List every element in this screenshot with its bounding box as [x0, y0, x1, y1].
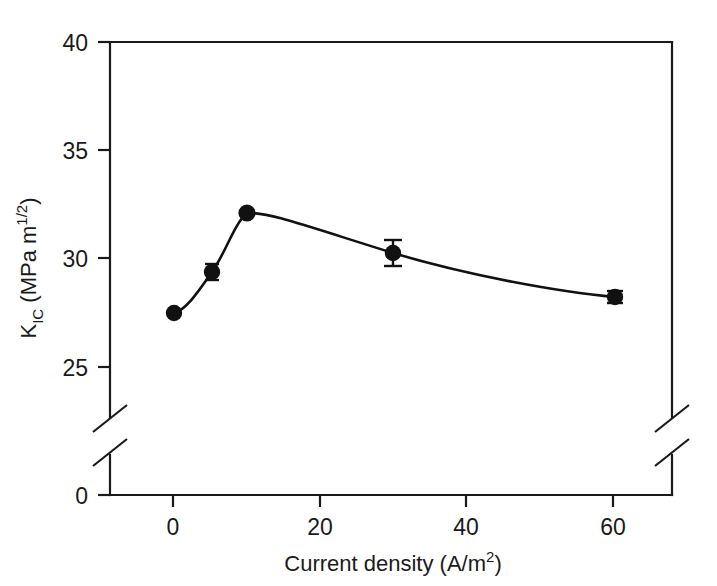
axis-frame — [110, 42, 672, 495]
y-axis-title-k: K — [16, 324, 41, 339]
y-axis-title: KIC (MPa m1/2) — [13, 198, 46, 339]
y-tick-label-40: 40 — [62, 30, 88, 56]
data-point-marker — [238, 204, 255, 221]
x-tick-label-40: 40 — [453, 514, 479, 540]
data-point-marker — [166, 305, 182, 321]
y-axis-title-tail: ) — [16, 198, 41, 205]
x-tick-label-60: 60 — [600, 514, 626, 540]
data-point-marker — [385, 245, 401, 261]
x-tick-marks — [173, 495, 613, 507]
series-line — [174, 213, 615, 313]
data-series-kic — [166, 204, 623, 321]
x-tick-label-0: 0 — [167, 514, 180, 540]
x-axis-title-tail: ) — [494, 551, 501, 576]
figure-container: 40 35 30 25 0 0 20 40 60 Current density… — [0, 0, 717, 586]
y-axis-title-mid: (MPa m — [16, 226, 41, 309]
x-axis-title-superscript: 2 — [486, 548, 494, 565]
data-point-marker — [204, 264, 220, 280]
y-tick-label-25: 25 — [62, 355, 88, 381]
x-tick-label-20: 20 — [307, 514, 333, 540]
y-axis-title-subscript: IC — [29, 309, 46, 324]
y-tick-label-35: 35 — [62, 138, 88, 164]
y-tick-labels: 40 35 30 25 0 — [62, 30, 88, 509]
x-axis-title: Current density (A/m2) — [284, 548, 501, 576]
x-tick-labels: 0 20 40 60 — [167, 514, 626, 540]
x-axis-title-base: Current density (A/m — [284, 551, 486, 576]
chart-canvas: 40 35 30 25 0 0 20 40 60 Current density… — [0, 0, 717, 586]
y-axis-title-superscript: 1/2 — [13, 205, 30, 226]
y-tick-label-0: 0 — [75, 483, 88, 509]
y-tick-label-30: 30 — [62, 246, 88, 272]
data-point-marker — [607, 289, 623, 305]
